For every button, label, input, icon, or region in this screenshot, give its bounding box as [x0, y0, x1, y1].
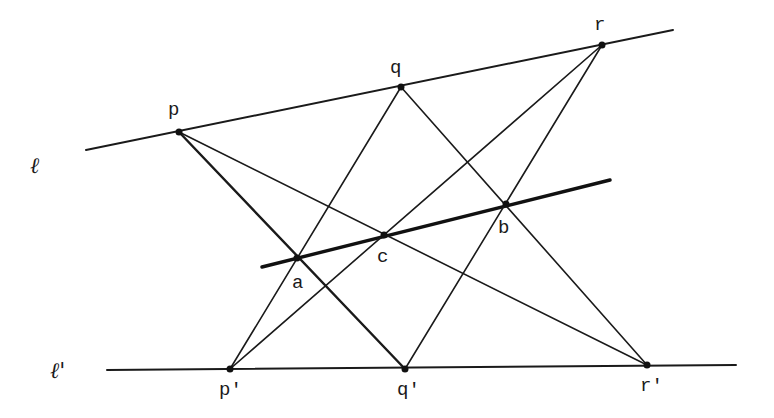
point-b	[503, 201, 510, 208]
labels-layer: ℓℓ'pqrp'q'r'abc	[30, 14, 663, 401]
point-label-b: b	[498, 217, 509, 239]
point-p-prime	[227, 366, 234, 373]
point-label-p: p	[168, 99, 179, 121]
point-label-p-prime: p'	[219, 379, 242, 401]
pappus-diagram: ℓℓ'pqrp'q'r'abc	[0, 0, 774, 418]
point-label-q: q	[390, 57, 401, 79]
point-a	[294, 255, 301, 262]
points-layer	[176, 42, 651, 373]
segments-layer	[179, 45, 647, 369]
point-r	[599, 42, 606, 49]
segment-r-q_prime	[405, 45, 602, 369]
point-label-r: r	[594, 14, 605, 36]
segment-r-p_prime	[230, 45, 602, 369]
point-c	[381, 232, 388, 239]
line-l-prime-label: ℓ'	[50, 358, 65, 383]
segment-p-r_prime	[179, 132, 647, 365]
point-q	[398, 84, 405, 91]
line-l-prime	[107, 365, 736, 370]
segment-p-q_prime	[179, 132, 405, 369]
point-label-r-prime: r'	[640, 375, 663, 397]
lines-layer	[86, 30, 736, 370]
point-q-prime	[402, 366, 409, 373]
pappus-line	[262, 180, 610, 267]
point-label-c: c	[377, 246, 388, 268]
line-l	[86, 30, 673, 150]
segment-q-r_prime	[401, 87, 647, 365]
point-label-a: a	[292, 272, 303, 294]
segment-q-p_prime	[230, 87, 401, 369]
point-label-q-prime: q'	[397, 379, 420, 401]
line-l-label: ℓ	[30, 153, 40, 178]
point-p	[176, 129, 183, 136]
point-r-prime	[644, 362, 651, 369]
